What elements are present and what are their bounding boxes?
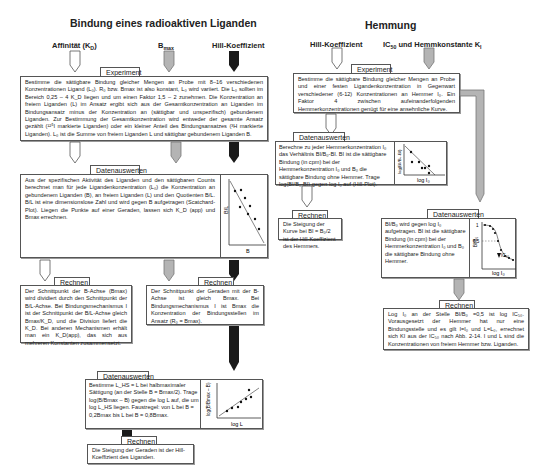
left-title: Bindung eines radioaktiven Liganden	[70, 17, 257, 29]
box-datenauswerten-left-2: Bestimme L_HS = L bei halbmaximaler Sätt…	[85, 379, 263, 429]
box-datenauswerten-right-1: Berechne zu jeder Hemmerkonzentration I₀…	[275, 141, 447, 185]
box-experiment-right: Bestimme die sättigbare Bindung gleicher…	[293, 73, 460, 113]
datenauswerten-left-1-text: Aus der spezifischen Aktivität des Ligan…	[25, 177, 215, 221]
header-affinity: Affinität (KD)	[52, 41, 97, 51]
inhibition-curve: 1 0.5 IC₅₀ BI/B₀ log I₀	[470, 219, 517, 277]
box-rechnen-left-3: Die Steigung der Geraden ist der Hill-Ko…	[87, 444, 194, 464]
gray-arrow-icon	[163, 260, 175, 282]
svg-text:IC₅₀: IC₅₀	[501, 253, 509, 258]
box-datenauswerten-right-2: BI/B₀ wird gegen log I₀ aufgetragen. BI …	[381, 218, 516, 278]
black-arrow-icon	[228, 142, 240, 164]
white-arrow-icon	[69, 51, 81, 73]
black-arrow-icon	[228, 51, 240, 73]
svg-text:1: 1	[476, 223, 479, 228]
box-rechnen-left-1: Der Schnittpunkt der B-Achse (Bmax) wird…	[20, 285, 132, 343]
white-arrow-icon	[39, 260, 51, 282]
right-title: Hemmung	[365, 19, 416, 31]
svg-text:BI/B₀: BI/B₀	[473, 236, 478, 247]
svg-text:log I₀: log I₀	[492, 270, 505, 276]
svg-text:log(B/Bmax – B): log(B/Bmax – B)	[206, 382, 211, 416]
white-arrow-icon	[331, 48, 343, 70]
box-rechnen-right-2: Log I₀ an der Stelle BI/B₀ =0,5 ist log …	[383, 308, 529, 350]
svg-text:B: B	[246, 248, 250, 254]
gray-arrow-icon	[423, 48, 435, 70]
svg-text:log I₀: log I₀	[417, 177, 430, 183]
black-arrow-icon	[228, 326, 240, 372]
box-rechnen-right-1: Die Steigung der Kurve bei BI = B₀/2 ist…	[278, 218, 342, 240]
datenauswerten-left-2-text: Bestimme L_HS = L bei halbmaximaler Sätt…	[89, 382, 199, 419]
scatchard-plot: B/L B	[222, 177, 268, 255]
header-bmax: Bmax	[158, 41, 174, 51]
header-hill-left: Hill-Koeffizient	[212, 41, 265, 50]
gray-pipe-arrow-icon	[460, 88, 490, 208]
box-experiment-left: Bestimme die sättigbare Bindung gleicher…	[20, 76, 268, 141]
gray-arrow-icon	[453, 279, 465, 301]
white-arrow-icon	[69, 142, 81, 164]
hill-plot-ligand: log(B/Bmax – B) log L	[201, 380, 263, 428]
gray-arrow-icon	[170, 142, 182, 164]
svg-text:log L: log L	[231, 421, 243, 427]
white-arrow-icon	[301, 186, 313, 208]
box-datenauswerten-left-1: Aus der spezifischen Aktivität des Ligan…	[20, 174, 268, 258]
box-rechnen-left-2: Der Schnittpunkt der Geraden mit der B-A…	[146, 285, 264, 325]
gray-arrow-icon	[163, 51, 175, 73]
datenauswerten-right-1-text: Berechne zu jeder Hemmerkonzentration I₀…	[279, 144, 393, 188]
datenauswerten-right-2-text: BI/B₀ wird gegen log I₀ aufgetragen. BI …	[385, 221, 467, 265]
hill-plot-inhibitor: log(BI/B₀-BI) log I₀	[395, 142, 447, 184]
svg-text:B/L: B/L	[223, 206, 229, 214]
svg-text:log(BI/B₀-BI): log(BI/B₀-BI)	[397, 149, 402, 174]
